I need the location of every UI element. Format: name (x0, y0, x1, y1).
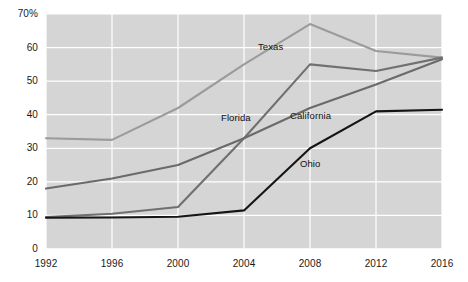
y-tick-label-60: 60 (0, 42, 38, 53)
series-label-florida: Florida (221, 112, 251, 123)
series-label-texas: Texas (258, 41, 283, 52)
plot-area (0, 0, 468, 282)
line-chart: 010203040506070% 19921996200020042008201… (0, 0, 468, 282)
y-tick-label-0: 0 (0, 243, 38, 254)
y-tick-label-20: 20 (0, 176, 38, 187)
y-tick-label-40: 40 (0, 109, 38, 120)
x-tick-label-2008: 2008 (280, 258, 340, 269)
series-label-ohio: Ohio (300, 158, 320, 169)
x-tick-label-2012: 2012 (346, 258, 406, 269)
x-tick-label-2000: 2000 (148, 258, 208, 269)
y-tick-label-10: 10 (0, 209, 38, 220)
y-tick-label-30: 30 (0, 142, 38, 153)
x-tick-label-2016: 2016 (412, 258, 468, 269)
x-tick-label-1992: 1992 (16, 258, 76, 269)
x-tick-label-2004: 2004 (214, 258, 274, 269)
y-tick-label-70: 70% (0, 8, 38, 19)
series-label-california: California (290, 110, 331, 121)
y-tick-label-50: 50 (0, 75, 38, 86)
x-tick-label-1996: 1996 (82, 258, 142, 269)
